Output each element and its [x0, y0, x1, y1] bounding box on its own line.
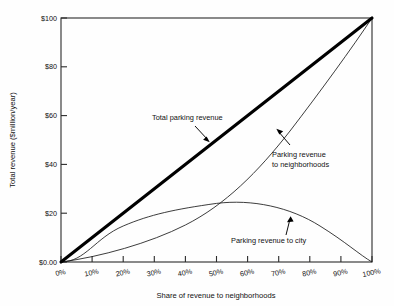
- y-tick-label-40: $40: [45, 160, 57, 169]
- y-tick-label-60: $60: [45, 111, 57, 120]
- x-axis-title: Share of revenue to neighborhoods: [156, 291, 275, 300]
- annotation-total-parking-revenue-label: Total parking revenue: [152, 113, 223, 122]
- y-tick-label-80: $80: [45, 62, 57, 71]
- y-axis-title: Total revenue ($million/year): [8, 92, 17, 188]
- annotation-neighborhoods-label-line2: to neighborhoods: [272, 160, 329, 169]
- annotation-neighborhoods-label-line1: Parking revenue: [272, 150, 326, 159]
- y-tick-label-100: $100: [41, 14, 57, 23]
- annotation-city-label: Parking revenue to city: [231, 236, 306, 245]
- parking-revenue-chart: $0.00 $20 $40 $60 $80 $100 0% 10% 20%: [0, 0, 394, 306]
- y-tick-label-20: $20: [45, 209, 57, 218]
- y-tick-label-0: $0.00: [39, 258, 57, 267]
